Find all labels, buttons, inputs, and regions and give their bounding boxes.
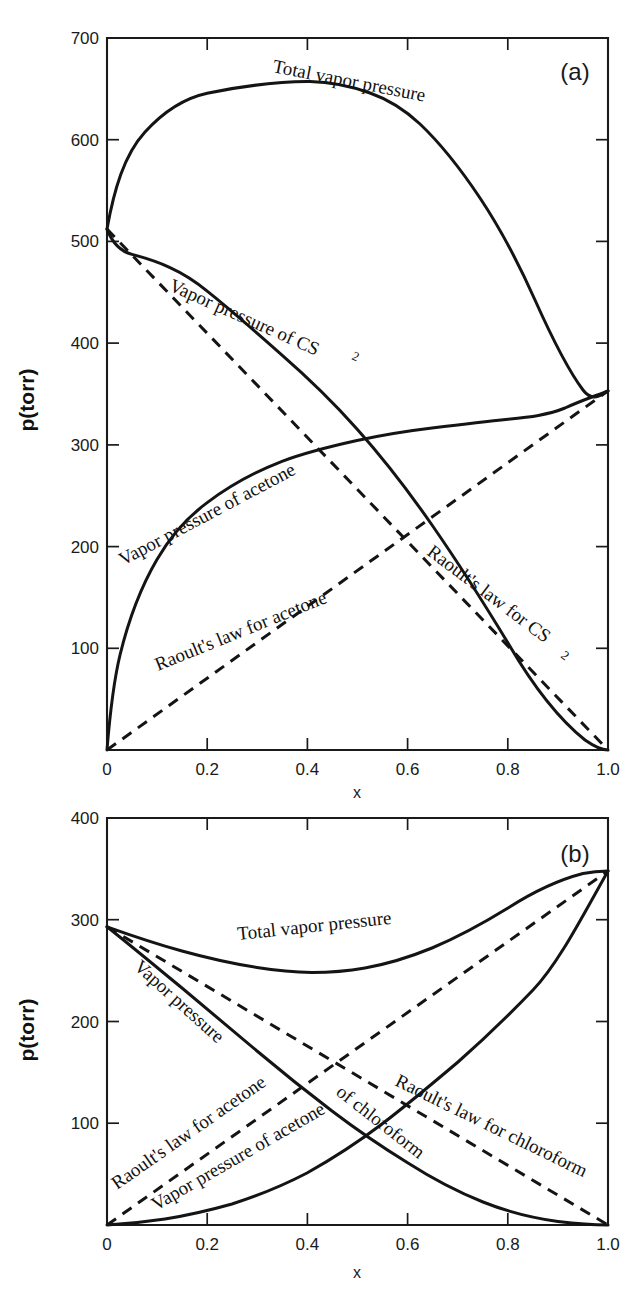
y-tick-label: 500 xyxy=(71,232,99,251)
x-ticks-b xyxy=(207,818,508,1225)
x-tick-label: 0.4 xyxy=(296,760,320,779)
chart-panel-b: 400 300 200 100 0 0.2 0.4 0.6 0.8 1.0 x … xyxy=(0,790,644,1293)
annot-total-vapor-pressure-b: Total vapor pressure xyxy=(236,907,392,944)
annot-vp-cs2-subscript: 2 xyxy=(350,348,362,364)
annot-vp-cs2-a: Vapor pressure of CS 2 xyxy=(166,274,361,364)
annot-raoult-cs2-subscript: 2 xyxy=(558,647,572,663)
annot-raoult-cs2-a: Raoult's law for CS 2 xyxy=(424,540,573,663)
annot-vp-acetone-a: Vapor pressure of acetone xyxy=(115,459,299,570)
annot-raoult-cs2-label: Raoult's law for CS xyxy=(424,540,555,646)
y-tick-label: 200 xyxy=(71,1013,99,1032)
chart-a-svg: 700 600 500 400 300 200 100 0 0.2 0.4 0.… xyxy=(0,0,644,800)
annot-total-vapor-pressure-a: Total vapor pressure xyxy=(271,55,427,105)
x-tick-label: 0.2 xyxy=(195,760,219,779)
x-tick-label: 0.4 xyxy=(296,1235,320,1254)
y-tick-label: 700 xyxy=(71,29,99,48)
y-tick-label: 400 xyxy=(71,334,99,353)
x-tick-label: 0.8 xyxy=(496,760,520,779)
x-tick-label: 0.6 xyxy=(396,760,420,779)
y-tick-label: 100 xyxy=(71,639,99,658)
annot-raoult-chloroform-b: Raoult's law for chloroform xyxy=(392,1070,591,1181)
x-tick-label: 0 xyxy=(102,1235,111,1254)
y-tick-label: 300 xyxy=(71,436,99,455)
y-tick-label: 300 xyxy=(71,911,99,930)
x-tick-label: 0.8 xyxy=(496,1235,520,1254)
y-axis-title: p(torr) xyxy=(15,999,38,1062)
axes-frame-b xyxy=(107,818,608,1225)
x-tick-label: 0 xyxy=(102,760,111,779)
y-tick-label: 100 xyxy=(71,1114,99,1133)
chart-panel-a: 700 600 500 400 300 200 100 0 0.2 0.4 0.… xyxy=(0,0,644,800)
y-tick-label: 400 xyxy=(71,809,99,828)
panel-tag-a: (a) xyxy=(560,58,589,85)
x-ticks-a xyxy=(207,38,508,750)
annot-vp-acetone-b: Vapor pressure of acetone xyxy=(148,1098,329,1215)
x-tick-labels-b: 0 0.2 0.4 0.6 0.8 1.0 xyxy=(102,1235,620,1254)
x-tick-labels-a: 0 0.2 0.4 0.6 0.8 1.0 xyxy=(102,760,620,779)
x-axis-title: x xyxy=(353,1264,361,1281)
x-tick-label: 1.0 xyxy=(596,760,620,779)
series-raoult-acetone-a xyxy=(107,391,608,750)
x-tick-label: 0.6 xyxy=(396,1235,420,1254)
annot-raoult-acetone-a: Raoult's law for acetone xyxy=(152,587,330,675)
series-raoult-cs2-a xyxy=(107,229,608,750)
y-tick-labels-a: 700 600 500 400 300 200 100 xyxy=(71,29,99,658)
x-tick-label: 0.2 xyxy=(195,1235,219,1254)
y-tick-label: 200 xyxy=(71,538,99,557)
x-tick-label: 1.0 xyxy=(596,1235,620,1254)
y-tick-label: 600 xyxy=(71,131,99,150)
chart-b-svg: 400 300 200 100 0 0.2 0.4 0.6 0.8 1.0 x … xyxy=(0,790,644,1293)
figure-page: 700 600 500 400 300 200 100 0 0.2 0.4 0.… xyxy=(0,0,644,1293)
panel-tag-b: (b) xyxy=(560,840,589,867)
y-tick-labels-b: 400 300 200 100 xyxy=(71,809,99,1133)
y-axis-title: p(torr) xyxy=(15,369,38,432)
